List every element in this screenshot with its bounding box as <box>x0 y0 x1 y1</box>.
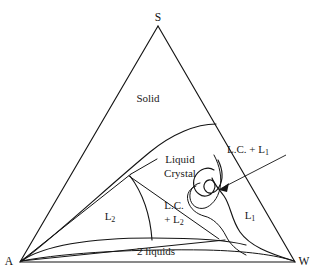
lc-l1-leader <box>219 155 286 192</box>
vertex-label-a: A <box>5 255 14 267</box>
region-label-lc-l2-line2: + L2 <box>164 213 184 227</box>
l2-lc-arc <box>130 176 152 240</box>
region-label-l1: L1 <box>245 209 256 223</box>
region-label-solid: Solid <box>136 92 160 104</box>
region-label-two-liquids: 2 liquids <box>137 245 175 257</box>
region-label-l2: L2 <box>105 210 116 224</box>
tieline-connector <box>131 159 157 174</box>
vertex-label-s: S <box>155 11 161 23</box>
swirl-inner-loop <box>194 160 222 196</box>
solid-liquidcrystal-boundary <box>22 124 216 261</box>
vertex-label-w: W <box>299 255 310 267</box>
phase-diagram-figure: S A W Solid Liquid Crystal L2 L.C. + L2 … <box>0 0 315 279</box>
triangle-left-edge <box>20 26 158 262</box>
ternary-diagram-canvas: S A W Solid Liquid Crystal L2 L.C. + L2 … <box>0 0 315 279</box>
region-label-liquid-crystal-line1: Liquid <box>165 153 195 165</box>
lc-l1-leader-line <box>220 155 286 189</box>
region-label-liquid-crystal-line2: Crystal <box>164 167 196 179</box>
region-label-lc-l2-line1: L.C. <box>164 199 184 211</box>
